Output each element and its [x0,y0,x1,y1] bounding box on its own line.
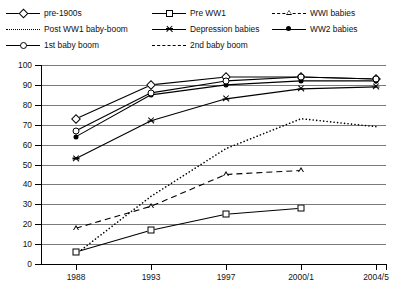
y-axis-tick-label: 60 [23,141,32,149]
legend-swatch [272,8,306,18]
open-triangle-marker-icon [298,167,304,172]
data-point [73,226,79,231]
filled-circle-marker-icon [74,134,79,139]
legend-item-label: Pre WW1 [190,8,226,18]
legend-line-icon [6,29,40,30]
open-circle-marker-icon [298,73,305,80]
open-square-marker-icon [223,211,230,218]
x-axis-tick [301,264,302,270]
open-triangle-marker-icon [73,225,79,230]
legend-item-label: WW2 babies [310,24,357,34]
data-point [223,172,229,177]
legend-item: WW2 babies [272,24,357,34]
y-axis-tick [35,184,41,185]
y-axis-tick [35,204,41,205]
legend-swatch [152,8,186,18]
data-point [223,211,230,218]
x-axis-tick-label: 2004/5 [363,273,389,282]
star-marker-icon [223,95,230,102]
legend-item-label: Depression babies [190,24,259,34]
chart-legend: pre-1900sPre WW1WWI babiesPost WW1 baby-… [0,0,414,58]
open-diamond-marker-icon [146,80,156,90]
data-point [298,85,305,92]
x-axis-tick-label: 1988 [67,273,86,282]
y-axis-tick [35,125,41,126]
data-point [373,75,380,82]
chart-plot-area: 1009080706050403020100 1988199319972000/… [0,58,414,289]
star-marker-icon [148,117,155,124]
y-axis-tick [35,165,41,166]
legend-item: Pre WW1 [152,8,226,18]
legend-swatch [152,40,186,50]
series-line [76,81,376,137]
x-axis-tick [226,264,227,270]
open-triangle-marker-icon [148,203,154,208]
series-line [76,208,301,252]
star-marker-icon [73,155,80,162]
legend-item: Post WW1 baby-boom [6,24,128,34]
legend-item-label: 2nd baby boom [190,40,248,50]
x-axis-end-tick [386,264,387,270]
data-point [73,249,80,256]
data-point [148,81,155,88]
data-point [298,205,305,212]
data-point [73,127,80,134]
y-axis-tick [35,65,41,66]
y-axis-tick [35,105,41,106]
data-point [74,134,79,139]
data-point [148,89,155,96]
chart-axes-frame: 1009080706050403020100 1988199319972000/… [41,65,386,265]
open-circle-marker-icon [373,75,380,82]
y-axis-tick-label: 100 [18,61,32,69]
legend-item-label: Post WW1 baby-boom [44,24,128,34]
chart-figure: pre-1900sPre WW1WWI babiesPost WW1 baby-… [0,0,414,289]
legend-item: 2nd baby boom [152,40,248,50]
y-axis-tick [35,145,41,146]
legend-item: pre-1900s [6,8,82,18]
y-axis-tick-label: 70 [23,121,32,129]
legend-item: Depression babies [152,24,259,34]
legend-swatch [152,24,186,34]
open-triangle-marker-icon [286,10,292,15]
data-point [148,204,154,209]
x-axis-tick-label: 1993 [142,273,161,282]
legend-swatch [272,24,306,34]
legend-item: WWI babies [272,8,355,18]
x-axis-tick-label: 2000/1 [288,273,314,282]
y-axis-tick-label: 0 [27,260,32,268]
star-marker-icon [166,26,173,33]
y-axis-tick-label: 80 [23,101,32,109]
y-axis-tick-label: 30 [23,200,32,208]
y-axis-tick-label: 90 [23,81,32,89]
data-point [373,83,380,90]
open-square-marker-icon [148,227,155,234]
legend-item-label: WWI babies [310,8,355,18]
x-axis-tick [151,264,152,270]
open-circle-marker-icon [148,89,155,96]
open-square-marker-icon [166,10,173,17]
open-circle-marker-icon [20,42,27,49]
x-axis-tick-label: 1997 [217,273,236,282]
x-axis-tick [376,264,377,270]
series-line [76,119,376,254]
series-lines [42,65,386,264]
open-diamond-marker-icon [19,8,29,18]
x-axis-tick [76,264,77,270]
legend-line-icon [152,45,186,46]
data-point [148,117,155,124]
data-point [298,168,304,173]
open-square-marker-icon [298,205,305,212]
y-axis-tick [35,264,41,265]
star-marker-icon [298,85,305,92]
y-axis-tick [35,85,41,86]
data-point [223,77,230,84]
open-square-marker-icon [73,249,80,256]
data-point [148,227,155,234]
data-point [73,115,80,122]
series-line [76,170,301,228]
y-axis-tick-label: 20 [23,220,32,228]
data-point [298,73,305,80]
legend-item-label: 1st baby boom [44,40,99,50]
y-axis-tick-label: 10 [23,240,32,248]
y-axis-tick [35,224,41,225]
